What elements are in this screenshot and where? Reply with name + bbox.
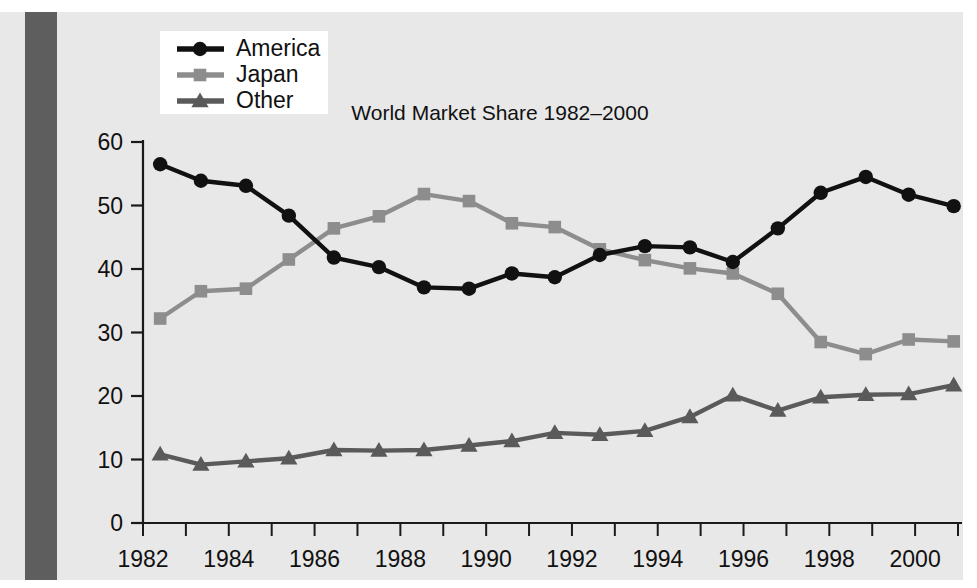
line-chart: 0102030405060198219841986198819901992199… <box>0 0 977 588</box>
chart-plot-area: 0102030405060198219841986198819901992199… <box>0 0 977 588</box>
data-point-marker <box>283 253 296 266</box>
data-point-marker <box>154 312 167 325</box>
data-point-marker <box>327 250 341 264</box>
data-point-marker <box>417 280 431 294</box>
series-other <box>152 377 963 471</box>
data-point-marker <box>771 221 785 235</box>
x-axis-tick-label: 1996 <box>718 546 769 572</box>
data-point-marker <box>683 240 697 254</box>
series-line-other <box>160 385 954 464</box>
data-point-marker <box>152 446 169 461</box>
y-axis-tick-label: 60 <box>97 129 123 155</box>
data-point-marker <box>945 377 962 392</box>
data-point-marker <box>724 387 741 402</box>
chart-title: World Market Share 1982–2000 <box>351 101 648 124</box>
data-point-marker <box>772 287 785 300</box>
data-series-group <box>152 157 963 471</box>
data-point-marker <box>328 222 341 235</box>
legend-marker-circle-icon <box>193 42 207 56</box>
data-point-marker <box>548 270 562 284</box>
data-point-marker <box>282 208 296 222</box>
data-point-marker <box>684 262 697 275</box>
data-point-marker <box>593 248 607 262</box>
data-point-marker <box>194 174 208 188</box>
data-point-marker <box>240 282 253 295</box>
data-point-marker <box>195 285 208 298</box>
y-axis-tick-label: 50 <box>97 193 123 219</box>
data-point-marker <box>638 239 652 253</box>
legend-marker-square-icon <box>194 69 207 82</box>
data-point-marker <box>947 335 960 348</box>
x-axis-tick-label: 1990 <box>461 546 512 572</box>
legend-item-label: Japan <box>236 61 299 87</box>
data-point-marker <box>639 254 652 267</box>
y-axis-tick-label: 0 <box>110 510 123 536</box>
y-axis-tick-label: 20 <box>97 383 123 409</box>
data-point-marker <box>239 179 253 193</box>
data-point-marker <box>153 157 167 171</box>
y-axis-tick-label: 30 <box>97 320 123 346</box>
data-point-marker <box>814 186 828 200</box>
x-axis-tick-label: 1994 <box>632 546 683 572</box>
data-point-marker <box>814 336 827 349</box>
legend-item-label: America <box>236 35 321 61</box>
data-point-marker <box>462 281 476 295</box>
legend-item-label: Other <box>236 87 294 113</box>
chart-title-text: World Market Share 1982–2000 <box>351 101 648 124</box>
data-point-marker <box>902 333 915 346</box>
axes: 0102030405060198219841986198819901992199… <box>97 129 962 572</box>
x-axis-tick-label: 1982 <box>117 546 168 572</box>
data-point-marker <box>859 170 873 184</box>
data-point-marker <box>901 188 915 202</box>
data-point-marker <box>505 266 519 280</box>
data-point-marker <box>548 221 561 234</box>
x-axis-tick-label: 1986 <box>289 546 340 572</box>
data-point-marker <box>947 199 961 213</box>
x-axis-tick-label: 1988 <box>375 546 426 572</box>
data-point-marker <box>418 188 431 201</box>
y-axis-tick-label: 40 <box>97 256 123 282</box>
y-axis-tick-label: 10 <box>97 447 123 473</box>
data-point-marker <box>506 217 519 230</box>
x-axis-tick-label: 1992 <box>546 546 597 572</box>
x-axis-tick-label: 2000 <box>890 546 941 572</box>
figure-root: 0102030405060198219841986198819901992199… <box>0 0 977 588</box>
data-point-marker <box>859 348 872 361</box>
x-axis-tick-label: 1998 <box>804 546 855 572</box>
data-point-marker <box>463 195 476 208</box>
data-point-marker <box>373 210 386 223</box>
chart-legend[interactable]: AmericaJapanOther <box>160 31 328 114</box>
data-point-marker <box>372 260 386 274</box>
data-point-marker <box>726 255 740 269</box>
x-axis-tick-label: 1984 <box>203 546 254 572</box>
